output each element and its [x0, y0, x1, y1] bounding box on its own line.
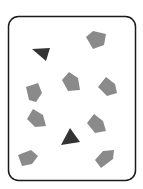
- shapes-diagram: [0, 0, 143, 189]
